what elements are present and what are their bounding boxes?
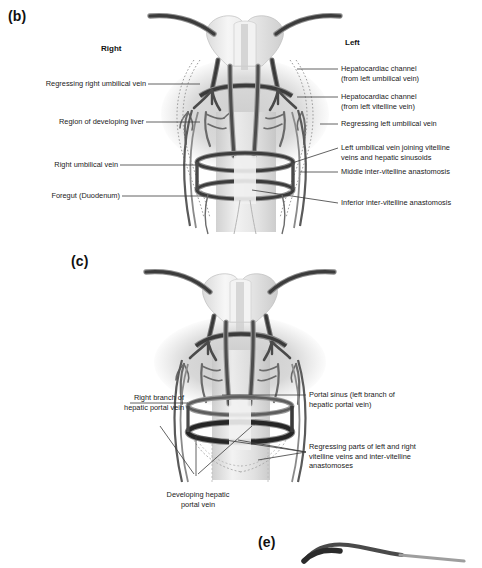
callout-right-branch-hepatic-portal-vein: Right branch of hepatic portal vein — [30, 393, 184, 412]
callout-middle-inter-vitelline-anastomosis: Middle inter-vitelline anastomosis — [341, 167, 482, 177]
callout-hepatocardiac-channel-umbilical: Hepatocardiac channel (from left umbilic… — [341, 64, 481, 83]
panel-b-tag: (b) — [8, 8, 26, 24]
callout-portal-sinus: Portal sinus (left branch of hepatic por… — [309, 390, 469, 409]
panel-c-tag: (c) — [71, 253, 89, 269]
portal-ring-lower — [188, 422, 292, 442]
middle-anastomosis-ring — [197, 153, 293, 171]
panel-e-tag: (e) — [258, 534, 276, 550]
panel-b-label-left: Left — [345, 38, 360, 47]
leader-developing-portal-c — [160, 426, 194, 474]
callout-regressing-right-umbilical-vein: Regressing right umbilical vein — [6, 79, 146, 89]
callout-developing-hepatic-portal-vein: Developing hepatic portal vein — [133, 490, 263, 509]
panel-b-artwork — [130, 4, 360, 236]
inferior-anastomosis-ring — [197, 181, 293, 199]
panel-e: (e) — [0, 515, 482, 555]
leader-inferior-anastomosis — [252, 190, 338, 203]
leader-developing-portal-b — [198, 426, 252, 474]
callout-right-umbilical-vein: Right umbilical vein — [6, 160, 118, 170]
callout-regressing-vitelline-parts: Regressing parts of left and right vitel… — [309, 442, 475, 471]
callout-foregut-duodenum: Foregut (Duodenum) — [6, 191, 120, 201]
callout-region-of-developing-liver: Region of developing liver — [6, 117, 144, 127]
leader-regressing-parts-c — [258, 452, 306, 460]
panel-c-leader-lines — [0, 240, 482, 515]
leader-left-umbilical-joining — [292, 148, 338, 163]
callout-hepatocardiac-channel-vitelline: Hepatocardiac channel (from left vitelli… — [341, 92, 481, 111]
leader-regressing-parts-b — [238, 440, 306, 452]
panel-b-label-right: Right — [101, 44, 121, 53]
callout-regressing-left-umbilical-vein: Regressing left umbilical vein — [341, 119, 481, 129]
callout-inferior-inter-vitelline-anastomosis: Inferior inter-vitelline anastomosis — [341, 198, 482, 208]
liver-region — [161, 58, 329, 170]
leader-regressing-parts-a — [198, 436, 306, 452]
panel-b: (b) Right Left — [0, 0, 482, 240]
panel-c: (c) — [0, 240, 482, 515]
callout-left-umbilical-vein-joining: Left umbilical vein joining vitelline ve… — [341, 143, 482, 162]
panel-e-artwork — [300, 531, 482, 568]
portal-ring-upper — [188, 397, 292, 415]
